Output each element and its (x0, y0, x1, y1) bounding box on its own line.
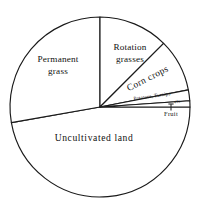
pie-slice-uncultivated-land[interactable] (11, 107, 190, 197)
label-rotation-grasses-line2: grasses (116, 54, 144, 64)
label-uncultivated-land: Uncultivated land (55, 132, 134, 143)
label-fruit: Fruit (164, 110, 178, 117)
label-permanent-grass-line2: grass (48, 66, 68, 76)
label-potatoes-turnips-line2: etc. (174, 97, 182, 104)
pie-chart-figure: Permanent grass Rotation grasses Corn cr… (0, 0, 202, 210)
label-permanent-grass-line1: Permanent (37, 54, 78, 64)
label-rotation-grasses-line1: Rotation (113, 42, 146, 52)
pie-chart-svg: Permanent grass Rotation grasses Corn cr… (0, 0, 202, 210)
